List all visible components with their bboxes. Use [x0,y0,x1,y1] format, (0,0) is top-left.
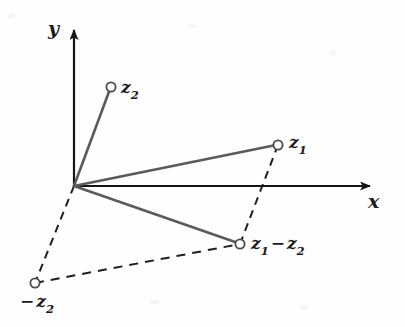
point-label-z2: z2 [121,79,139,100]
axes-group [74,30,370,186]
point-label-z2-subscript: 2 [131,88,139,102]
y-axis-label: y [48,19,59,38]
point-label-difference-subscript-2: 2 [297,244,305,258]
minus-operator: − [269,233,287,253]
point-label-z1-subscript: 1 [299,143,307,157]
point-marker-z1-minus-z2 [235,239,244,248]
complex-plane-figure: y x z2 z1 z1−z2 −z2 [0,0,405,327]
x-axis-label: x [368,192,379,211]
point-marker-z2 [106,82,115,91]
point-label-minus-z2-subscript: 2 [46,302,54,316]
vector-to-minus-z2 [35,186,74,283]
point-label-minus-z2-base: z [36,291,46,311]
figure-canvas [0,0,405,327]
vectors-group [74,89,276,243]
point-label-difference-base-2: z [287,233,297,253]
point-label-difference-base-1: z [251,233,261,253]
point-label-difference-subscript-1: 1 [261,244,269,258]
vector-to-z2 [74,89,110,186]
parallel-minus-z2-to-difference [35,244,240,283]
point-label-z1-minus-z2: z1−z2 [251,235,305,256]
point-marker-z1 [273,140,282,149]
negation-sign: − [18,291,36,311]
point-label-z2-base: z [121,77,131,97]
parallel-z1-to-difference [240,145,278,244]
point-label-z1-base: z [289,132,299,152]
point-label-z1: z1 [289,134,307,155]
vector-to-z1-minus-z2 [74,186,238,243]
point-label-minus-z2: −z2 [18,293,54,314]
vector-to-z1 [74,145,276,186]
point-marker-minus-z2 [30,278,39,287]
